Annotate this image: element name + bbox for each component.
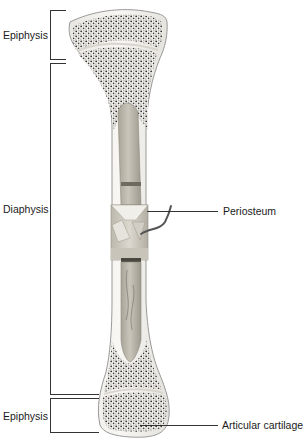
articular-cartilage-leader-line — [140, 425, 218, 426]
epiphysis-top-bracket-tick-bottom — [50, 59, 66, 60]
periosteum-leader-line — [147, 211, 218, 212]
label-epiphysis-bottom: Epiphysis — [3, 410, 48, 422]
top-metaphysis-spongy — [78, 47, 157, 130]
label-articular-cartilage: Articular cartilage — [222, 419, 303, 431]
diaphysis-bracket-tick-top — [50, 63, 66, 64]
epiphysis-top-bracket-tick-top — [50, 10, 66, 11]
long-bone-illustration — [0, 0, 307, 441]
long-bone-diagram: Epiphysis Diaphysis Periosteum Epiphysis… — [0, 0, 307, 441]
epiphysis-bottom-bracket-tick-top — [50, 398, 99, 399]
diaphysis-bracket-tick-bottom — [50, 394, 99, 395]
label-epiphysis-top: Epiphysis — [3, 29, 48, 41]
medullary-cavity-lower — [121, 262, 141, 362]
epiphysis-bottom-bracket-tick-bottom — [50, 432, 99, 433]
diaphysis-bracket — [50, 63, 51, 394]
epiphysis-top-bracket — [50, 10, 51, 59]
medullary-cavity-upper — [118, 103, 141, 205]
epiphysis-bottom-bracket — [50, 398, 51, 432]
label-diaphysis: Diaphysis — [3, 203, 49, 215]
label-periosteum: Periosteum — [223, 205, 276, 217]
